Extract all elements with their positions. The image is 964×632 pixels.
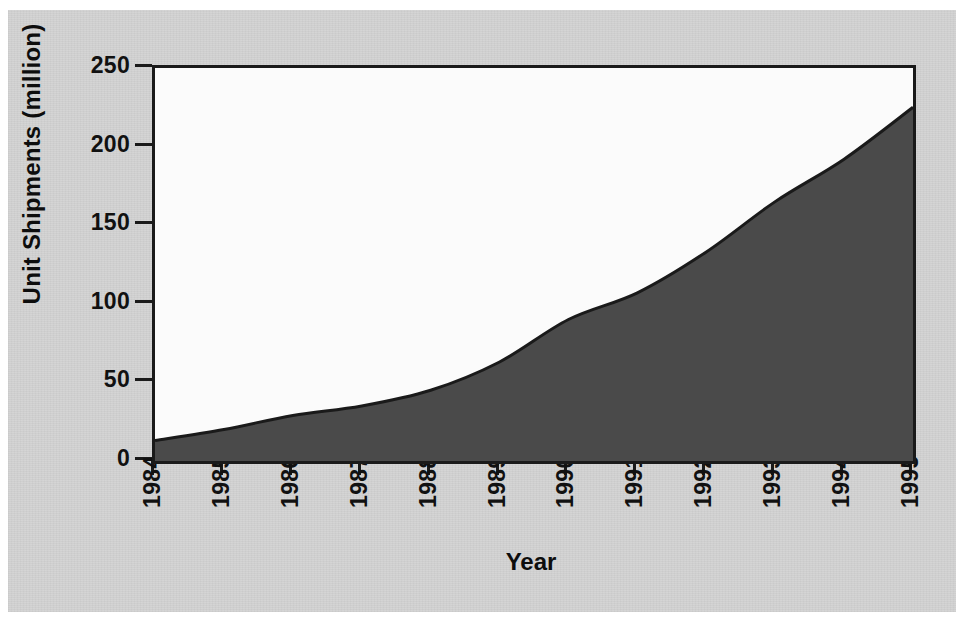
y-axis-tick-mark: [135, 143, 152, 146]
x-axis-tick-label: 1988: [414, 456, 441, 536]
y-axis-tick-mark: [135, 221, 152, 224]
y-axis-tick-label: 150: [91, 209, 130, 236]
x-axis-title: Year: [152, 548, 910, 576]
y-axis-tick-label: 200: [91, 131, 130, 158]
x-axis-tick-label: 1991: [621, 456, 648, 536]
area-fill-path: [155, 107, 913, 461]
figure-root: Unit Shipments (million) 050100150200250…: [0, 0, 964, 632]
y-axis-tick-label: 0: [117, 445, 130, 472]
y-axis-tick-label: 50: [104, 366, 130, 393]
x-axis-tick-label: 1990: [552, 456, 579, 536]
x-axis-tick-label: 1984: [139, 456, 166, 536]
y-axis-tick-label: 250: [91, 52, 130, 79]
plot-area: [152, 65, 916, 464]
y-axis-tick-mark: [135, 64, 152, 67]
x-axis-tick-label: 1993: [759, 456, 786, 536]
x-axis-tick-label: 1992: [690, 456, 717, 536]
x-axis-tick-label: 1994: [828, 456, 855, 536]
x-axis-tick-label: 1989: [483, 456, 510, 536]
x-axis-tick-label: 1985: [207, 456, 234, 536]
y-axis-tick-mark: [135, 378, 152, 381]
area-series-svg: [155, 68, 913, 461]
x-axis-tick-label: 1995: [897, 456, 924, 536]
y-axis-tick-mark: [135, 300, 152, 303]
y-axis-tick-label: 100: [91, 288, 130, 315]
y-axis-title: Unit Shipments (million): [18, 0, 46, 374]
x-axis-tick-label: 1987: [345, 456, 372, 536]
x-axis-tick-label: 1986: [276, 456, 303, 536]
